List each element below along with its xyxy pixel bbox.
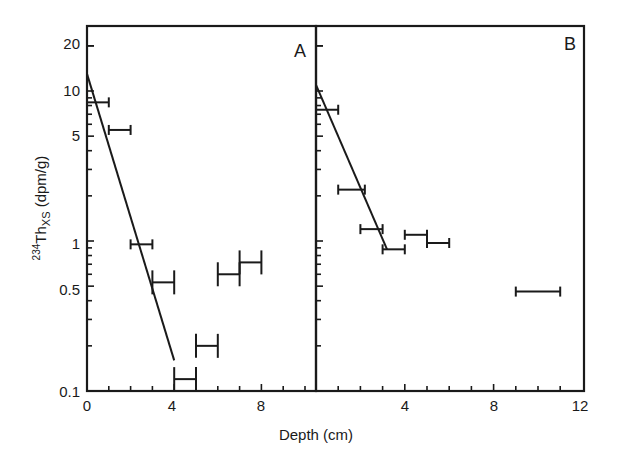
y-tick-10: 10: [63, 82, 80, 99]
depth-profile-chart: 20 10 5 1 0.5 0.1 0 4 8 4 8 12 A B Depth…: [0, 0, 627, 464]
x-axis-title: Depth (cm): [279, 426, 353, 443]
y-axis-subscript: XS: [40, 211, 52, 226]
panel-b-frame: [316, 26, 584, 391]
x-tick-b-12: 12: [572, 397, 589, 414]
x-tick-b-8: 8: [490, 397, 498, 414]
x-tick-b-4: 4: [401, 397, 409, 414]
y-axis-isotope-mass: 234: [31, 243, 42, 260]
y-tick-5: 5: [72, 127, 80, 144]
data-series: [87, 74, 560, 391]
y-axis-title: 234ThXS (dpm/g): [31, 156, 52, 261]
y-tick-0-1: 0.1: [59, 383, 80, 400]
y-tick-1: 1: [72, 235, 80, 252]
x-tick-a-0: 0: [83, 397, 91, 414]
axis-ticks: [87, 46, 560, 391]
y-tick-20: 20: [63, 35, 80, 52]
panel-a-label: A: [294, 41, 306, 61]
x-tick-a-8: 8: [257, 397, 265, 414]
x-tick-a-4: 4: [168, 397, 176, 414]
panel-b-label: B: [564, 34, 576, 54]
y-axis-unit: (dpm/g): [32, 156, 49, 212]
panel-a-frame: [87, 26, 316, 391]
fit-line: [87, 74, 174, 360]
y-tick-0-5: 0.5: [59, 281, 80, 298]
y-axis-element: Th: [32, 226, 49, 244]
fit-line: [316, 85, 387, 250]
